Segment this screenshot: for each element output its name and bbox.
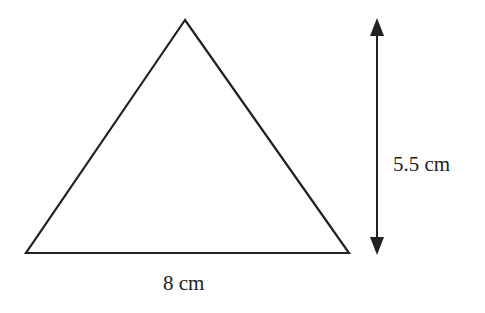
height-label: 5.5 cm <box>393 152 450 177</box>
arrow-down-icon <box>370 237 384 255</box>
triangle <box>26 20 349 253</box>
arrow-up-icon <box>370 18 384 36</box>
base-label: 8 cm <box>163 271 204 296</box>
height-arrow <box>370 18 384 255</box>
